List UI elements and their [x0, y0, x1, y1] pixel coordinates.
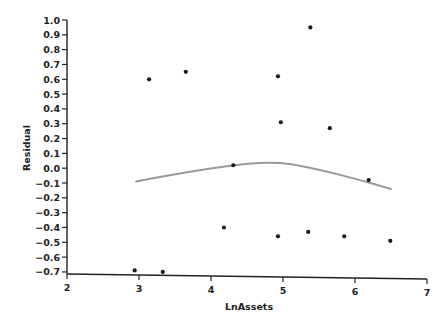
- y-tick-label: −0.6: [35, 252, 60, 263]
- data-point: [328, 126, 332, 130]
- x-axis: 234567: [64, 274, 431, 298]
- data-point: [279, 120, 283, 124]
- x-tick-label: 3: [136, 283, 143, 294]
- x-tick-label: 4: [208, 284, 215, 295]
- y-tick-label: 1.0: [43, 15, 60, 26]
- data-point: [308, 25, 312, 29]
- data-point: [161, 270, 165, 274]
- y-tick-label: 0.5: [43, 89, 60, 100]
- y-tick-label: −0.4: [35, 222, 60, 233]
- x-tick-label: 7: [424, 287, 431, 298]
- data-point: [133, 268, 137, 272]
- x-tick-label: 6: [352, 286, 359, 297]
- y-tick-label: 0.8: [43, 44, 60, 55]
- y-tick-label: −0.2: [35, 192, 60, 203]
- y-tick-label: 0.9: [43, 29, 60, 40]
- data-point: [184, 70, 188, 74]
- x-tick-label: 5: [280, 285, 287, 296]
- data-point: [367, 178, 371, 182]
- y-tick-label: 0.4: [43, 103, 60, 114]
- x-tick-label: 2: [64, 282, 71, 293]
- y-axis-title: Residual: [21, 125, 32, 171]
- fit-curve: [136, 163, 391, 189]
- y-axis: 1.00.90.80.70.60.50.40.30.20.10.0−0.1−0.…: [35, 15, 67, 278]
- data-point: [388, 239, 392, 243]
- data-point: [276, 234, 280, 238]
- data-point: [147, 77, 151, 81]
- data-point: [222, 225, 226, 229]
- y-tick-label: −0.3: [35, 207, 60, 218]
- data-point: [276, 74, 280, 78]
- scatter-points: [133, 25, 393, 274]
- data-point: [231, 163, 235, 167]
- y-tick-label: 0.0: [43, 163, 60, 174]
- residual-scatter-chart: 1.00.90.80.70.60.50.40.30.20.10.0−0.1−0.…: [0, 0, 447, 323]
- y-tick-label: 0.7: [43, 59, 60, 70]
- x-axis-title: LnAssets: [225, 301, 273, 312]
- y-tick-label: −0.1: [35, 178, 60, 189]
- y-tick-label: −0.7: [35, 266, 60, 277]
- y-tick-label: 0.6: [43, 74, 60, 85]
- smoothed-fit-line: [136, 163, 391, 189]
- x-axis-line: [67, 274, 427, 279]
- data-point: [306, 230, 310, 234]
- data-point: [342, 234, 346, 238]
- y-tick-label: 0.3: [43, 118, 60, 129]
- y-tick-label: 0.2: [43, 133, 60, 144]
- y-tick-label: 0.1: [43, 148, 60, 159]
- y-tick-label: −0.5: [35, 237, 60, 248]
